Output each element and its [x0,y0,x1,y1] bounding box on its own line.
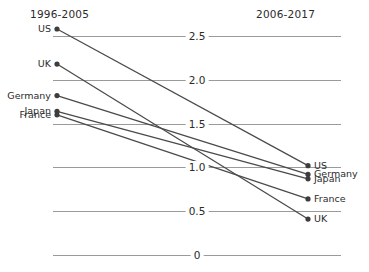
slope-chart: 1996-2005 2006-2017 2.52.01.51.00.50 USU… [0,0,369,272]
y-tick-label: 0 [191,249,204,261]
slope-line-germany [57,96,308,175]
right-label-japan: Japan [314,174,341,184]
left-label-germany: Germany [7,91,51,101]
y-tick-label: 1.5 [186,118,209,130]
data-point-france [305,196,310,201]
plot-area [0,0,369,272]
right-label-uk: UK [314,214,327,224]
y-tick-label: 1.0 [186,161,209,173]
data-point-us [54,26,59,31]
data-point-japan [305,176,310,181]
data-point-us [305,163,310,168]
left-label-france: France [19,110,51,120]
right-label-france: France [314,194,346,204]
gridlines [53,37,341,256]
y-tick-label: 2.0 [186,74,209,86]
y-tick-label: 0.5 [186,205,209,217]
slope-line-uk [57,64,308,219]
left-label-uk: UK [38,59,51,69]
slope-line-france [57,115,308,199]
data-point-germany [54,93,59,98]
left-label-us: US [38,24,51,34]
data-point-uk [305,216,310,221]
y-tick-label: 2.5 [186,30,209,42]
data-point-uk [54,61,59,66]
data-point-france [54,112,59,117]
